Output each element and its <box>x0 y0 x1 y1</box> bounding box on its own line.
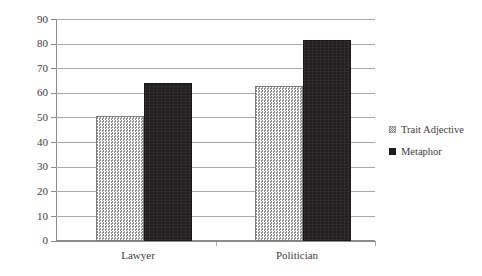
x-category-label-lawyer: Lawyer <box>96 249 180 262</box>
legend-item-metaphor: Metaphor <box>389 146 481 157</box>
bar-chart: 90 80 70 60 50 40 30 20 10 0 <box>0 0 482 276</box>
y-tick-label: 60 <box>18 87 48 98</box>
legend-label: Metaphor <box>401 146 442 157</box>
legend-label: Trait Adjective <box>401 124 464 135</box>
y-tick-label: 20 <box>18 186 48 197</box>
bar-politician-metaphor <box>303 40 351 241</box>
y-tick-label: 90 <box>18 14 48 25</box>
y-axis-tick-labels: 90 80 70 60 50 40 30 20 10 0 <box>8 0 48 276</box>
y-tick-label: 50 <box>18 112 48 123</box>
bar-politician-trait-adjective <box>255 86 303 241</box>
x-axis-separator-tick <box>216 242 217 246</box>
bar-lawyer-metaphor <box>144 83 192 241</box>
y-tick-label: 0 <box>18 235 48 246</box>
chart-legend: Trait Adjective Metaphor <box>389 124 481 168</box>
legend-swatch-black-icon <box>389 148 396 155</box>
legend-item-trait-adjective: Trait Adjective <box>389 124 481 135</box>
y-tick-label: 80 <box>18 38 48 49</box>
y-tick-label: 70 <box>18 63 48 74</box>
x-axis-end-tick <box>375 242 376 246</box>
gridline-90 <box>56 19 375 20</box>
x-category-label-politician: Politician <box>255 249 339 262</box>
plot-area <box>56 19 375 241</box>
y-tick-label: 30 <box>18 161 48 172</box>
y-tick-label: 40 <box>18 137 48 148</box>
y-tick-label: 10 <box>18 211 48 222</box>
legend-swatch-gray-icon <box>389 126 396 133</box>
bar-lawyer-trait-adjective <box>96 116 144 241</box>
